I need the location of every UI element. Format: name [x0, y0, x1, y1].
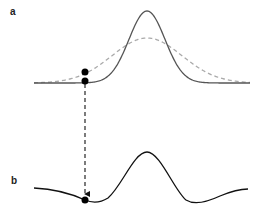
dot-dashed-curve	[82, 69, 89, 76]
dot-solid-curve	[82, 78, 89, 85]
solid-gaussian-curve	[34, 11, 250, 83]
dashed-gaussian-curve	[34, 38, 250, 83]
dot-bottom-curve	[82, 197, 89, 204]
diagram-canvas	[0, 0, 278, 214]
difference-curve	[34, 152, 248, 203]
